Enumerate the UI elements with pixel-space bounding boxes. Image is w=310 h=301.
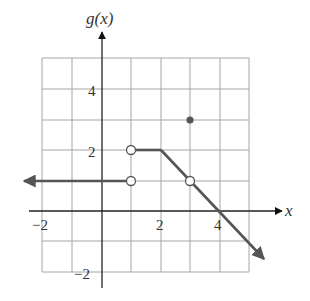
tick-y-2: 2	[88, 144, 96, 160]
open-point-1-2	[127, 146, 136, 155]
tick-y-neg2: −2	[74, 266, 90, 282]
tick-x-2: 2	[156, 217, 164, 233]
function-graph: g(x) x −2 2 4 4 2 −2	[0, 0, 310, 301]
closed-point-3-3	[186, 116, 193, 123]
open-point-3-1	[186, 177, 195, 186]
tick-x-neg2: −2	[32, 217, 48, 233]
y-axis-label: g(x)	[86, 9, 114, 28]
open-point-1-1	[127, 177, 136, 186]
tick-x-4: 4	[214, 217, 222, 233]
function-curve	[24, 150, 264, 259]
x-axis-label: x	[284, 201, 293, 220]
grid	[42, 58, 249, 272]
tick-y-4: 4	[88, 83, 96, 99]
